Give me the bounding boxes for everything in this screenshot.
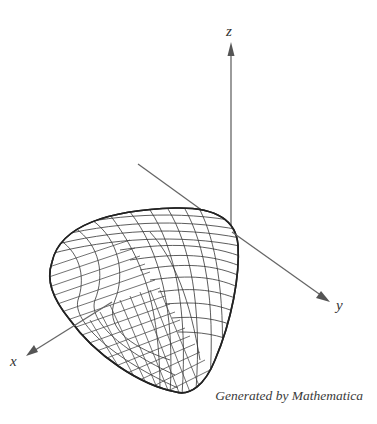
figure-caption: Generated by Mathematica [215,388,363,404]
surface-plot-3d: z [0,0,377,424]
wireframe-surface [40,208,240,404]
x-axis-label: x [9,353,17,369]
x-arrow-icon [26,345,38,356]
z-axis: z [225,23,235,232]
z-arrow-icon [228,42,235,56]
y-axis-label: y [334,297,343,313]
y-axis: y [232,232,343,313]
z-axis-label: z [225,23,232,39]
